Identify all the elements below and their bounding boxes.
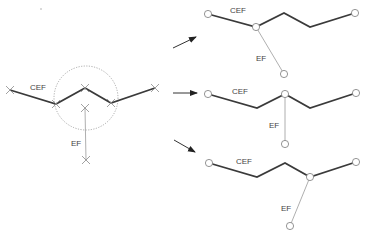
junction-node-icon: [281, 90, 288, 97]
x-marker-icon: [107, 99, 115, 107]
node-circle-icon: [286, 222, 293, 229]
variant-bottom: CEF EF: [205, 157, 359, 230]
node-circle-icon: [352, 158, 359, 165]
arrow-icon-up: [173, 37, 196, 48]
node-circle-icon: [280, 70, 287, 77]
cef-label: CEF: [30, 83, 46, 92]
ef-label: EF: [269, 121, 279, 130]
ef-line: [85, 108, 86, 160]
edge-attachment-diagram: CEF EF CEF EF CEF EF CEF EF: [0, 0, 365, 239]
ef-line: [256, 27, 284, 74]
junction-node-icon: [252, 23, 259, 30]
cef-label: CEF: [230, 6, 246, 15]
ef-label: EF: [71, 139, 81, 148]
node-circle-icon: [351, 9, 358, 16]
node-circle-icon: [204, 90, 211, 97]
arrow-icon-down: [174, 140, 195, 152]
node-circle-icon: [352, 89, 359, 96]
node-circle-icon: [281, 140, 288, 147]
ef-label: EF: [281, 204, 291, 213]
selection-circle: [54, 66, 118, 130]
source-figure: CEF EF: [6, 66, 159, 164]
x-marker-icon: [81, 84, 89, 92]
x-marker-icon: [151, 84, 159, 92]
variant-top: CEF EF: [204, 6, 358, 78]
ef-line: [290, 177, 310, 226]
junction-node-icon: [306, 173, 313, 180]
cef-label: CEF: [232, 87, 248, 96]
cef-label: CEF: [236, 157, 252, 166]
node-circle-icon: [204, 10, 211, 17]
stray-dot: [40, 8, 41, 9]
cef-polyline: [208, 13, 355, 27]
cef-polyline: [209, 162, 356, 177]
arrows: [173, 37, 197, 152]
variant-middle: CEF EF: [204, 87, 359, 148]
ef-label: EF: [256, 54, 266, 63]
node-circle-icon: [205, 159, 212, 166]
